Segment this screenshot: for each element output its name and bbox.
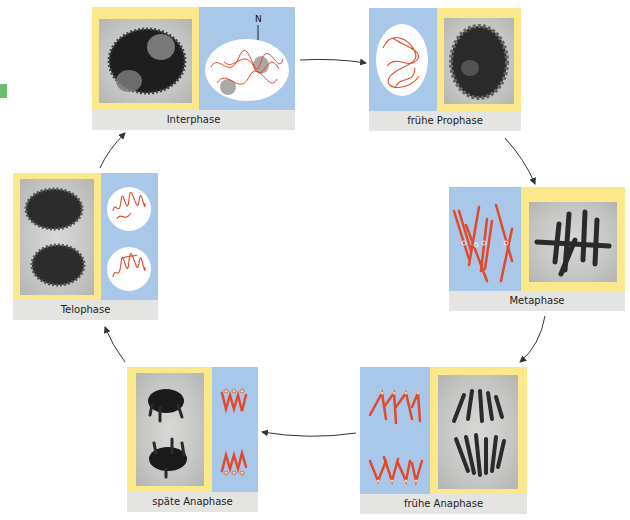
schematic-telophase: [101, 173, 158, 300]
schematic-bg: N: [199, 7, 295, 110]
daughter-nuclei-photo: [20, 179, 94, 295]
cell-nucleus-photo: [444, 18, 514, 104]
schematic-bg: [449, 187, 521, 291]
arrow-late-anaphase-to-telophase: [105, 327, 125, 362]
panel-spaete-anaphase: späte Anaphase: [127, 367, 258, 512]
arrow-early-anaphase-to-late-anaphase: [262, 432, 356, 436]
schematic-interphase: N: [199, 7, 295, 110]
schematic-early-anaphase: [360, 367, 430, 494]
schematic-bg: [212, 367, 258, 492]
panel-metaphase: Metaphase: [449, 187, 625, 311]
chromosomes-photo: [529, 202, 617, 282]
schematic-bg: [101, 173, 158, 300]
micrograph-prophase: [444, 18, 514, 104]
panel-fruehe-anaphase: frühe Anaphase: [360, 367, 527, 514]
micrograph-late-anaphase: [136, 373, 204, 486]
micrograph-metaphase: [529, 202, 617, 282]
panel-fruehe-prophase: frühe Prophase: [369, 8, 521, 131]
caption-interphase: Interphase: [92, 110, 295, 130]
panel-interphase: N Interphase: [92, 7, 295, 130]
arrow-metaphase-to-early-anaphase: [520, 316, 545, 362]
caption-fruehe-prophase: frühe Prophase: [369, 111, 521, 131]
panel-telophase: Telophase: [13, 173, 158, 320]
schematic-bg: [369, 8, 437, 111]
caption-fruehe-anaphase: frühe Anaphase: [360, 494, 527, 514]
photo-frame: [127, 367, 212, 492]
arrow-prophase-to-metaphase: [505, 138, 535, 184]
chromosomes-photo: [136, 373, 204, 486]
chromosomes-photo: [438, 375, 518, 489]
micrograph-early-anaphase: [438, 375, 518, 489]
caption-spaete-anaphase: späte Anaphase: [127, 492, 258, 512]
schematic-bg: [360, 367, 430, 494]
caption-metaphase: Metaphase: [449, 291, 625, 311]
photo-frame: [92, 7, 199, 110]
micrograph-interphase: [99, 19, 192, 103]
caption-telophase: Telophase: [13, 300, 158, 320]
schematic-metaphase: [449, 187, 521, 291]
arrow-interphase-to-prophase: [300, 59, 366, 63]
side-marker: [0, 84, 7, 98]
cell-nucleus-photo: [99, 19, 192, 103]
nucleolus-label-n: N: [255, 14, 262, 24]
schematic-prophase: [369, 8, 437, 111]
photo-frame: [521, 187, 625, 291]
micrograph-telophase: [20, 179, 94, 295]
photo-frame: [437, 8, 521, 111]
photo-frame: [430, 367, 527, 494]
photo-frame: [13, 173, 101, 300]
schematic-late-anaphase: [212, 367, 258, 492]
arrow-telophase-to-interphase: [100, 133, 125, 168]
